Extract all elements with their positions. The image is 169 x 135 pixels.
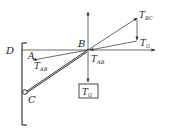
force-diagram: TG D A B C TBC TG TAB TAB <box>0 0 169 135</box>
wall <box>22 43 27 125</box>
point-d-label: D <box>5 45 14 56</box>
point-c-label: C <box>28 94 36 105</box>
triangle-gravity-label: TG <box>140 38 150 49</box>
tension-ab-right-label: TAB <box>91 54 105 65</box>
tension-bc-label: TBC <box>139 10 153 21</box>
tension-ab-left-label: TAB <box>34 61 48 72</box>
point-b-label: B <box>77 38 85 49</box>
point-a-label: A <box>27 51 35 61</box>
triangle-tension-ab-arrow <box>90 41 137 50</box>
pivot-c <box>23 90 28 95</box>
tension-bc-arrow <box>88 18 137 50</box>
